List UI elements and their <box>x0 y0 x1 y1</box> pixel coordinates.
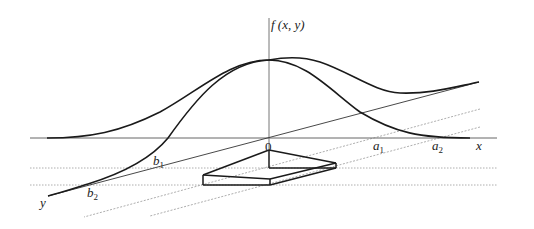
volume-box <box>203 150 336 185</box>
z-axis-label: f (x, y) <box>271 18 305 31</box>
curve-x-section <box>47 60 470 138</box>
origin-label: 0 <box>265 140 272 153</box>
b1-subscript: 1 <box>160 160 165 170</box>
b2-subscript: 2 <box>94 192 99 202</box>
b1-label: b1 <box>153 154 164 170</box>
a2-label: a2 <box>432 139 443 155</box>
dotted-diagonal-a2 <box>150 127 480 216</box>
a2-subscript: 2 <box>439 145 444 155</box>
b2-label: b2 <box>87 186 98 202</box>
y-axis-label: y <box>40 196 46 209</box>
dotted-diagonal-a1 <box>84 109 480 217</box>
x-axis-label: x <box>476 139 482 152</box>
a1-subscript: 1 <box>380 145 385 155</box>
diagram-canvas: f (x, y) 0 x y a1 a2 b1 b2 <box>0 0 534 229</box>
diagram-svg <box>0 0 534 229</box>
a1-label: a1 <box>373 139 384 155</box>
